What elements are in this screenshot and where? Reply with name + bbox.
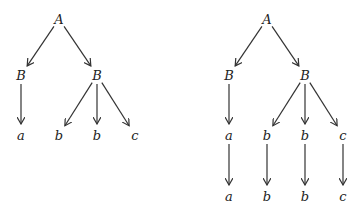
edge-arrow [65,83,92,126]
edge-arrow [102,83,129,126]
node-label: c [339,189,347,204]
node-label: b [301,128,309,143]
node-label: B [223,68,234,83]
node-label: a [225,189,233,204]
edge-arrow [235,26,262,65]
node-label: b [93,128,101,143]
node-label: b [263,128,271,143]
edge-arrow [273,83,300,126]
edge-arrow [310,83,337,126]
tree-diagram: ABBabbcABBabbcabbc [0,0,362,210]
edge-arrow [27,26,54,65]
edge-arrow [64,26,91,65]
edge-arrow [272,26,299,65]
node-label: B [15,68,26,83]
diagram-canvas: ABBabbcABBabbcabbc [0,0,362,210]
node-label: A [53,12,63,27]
node-label: B [91,68,102,83]
node-label: c [339,128,347,143]
node-label: b [55,128,63,143]
node-label: a [17,128,25,143]
nodes: ABBabbcABBabbcabbc [15,12,347,204]
node-label: A [261,12,271,27]
node-label: b [301,189,309,204]
edges [21,26,343,185]
node-label: B [299,68,310,83]
node-label: a [225,128,233,143]
node-label: c [131,128,139,143]
node-label: b [263,189,271,204]
